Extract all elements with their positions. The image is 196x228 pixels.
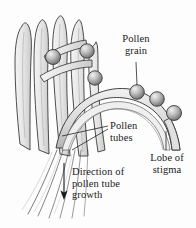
pollen-grain-p3	[88, 71, 102, 85]
pollen-grain-p1	[46, 50, 61, 65]
label-direction-of-pollen-tube-growth: Direction of pollen tube growth	[72, 166, 138, 201]
label-pollen-grain: Pollen grain	[108, 33, 164, 56]
leader-pollen-grain	[136, 62, 137, 85]
label-lobe-of-stigma: Lobe of stigma	[140, 152, 194, 175]
pollen-grain-p2	[80, 44, 94, 58]
label-pollen-tubes: Pollen tubes	[110, 120, 160, 143]
pollen-tube-diagram: Pollen grain Pollen tubes Lobe of stigma…	[0, 0, 196, 228]
pollen-grain-s2	[150, 92, 165, 107]
pollen-grain-s3	[167, 106, 182, 121]
pollen-grains-on-stigma	[130, 85, 182, 121]
pollen-grain-s1	[130, 85, 145, 100]
